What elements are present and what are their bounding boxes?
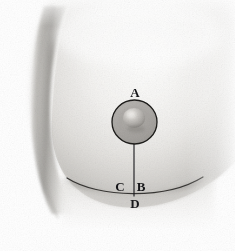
label-b: B [134,180,148,193]
illustration-canvas [0,0,235,251]
areola-nipple-group [112,100,157,144]
bottom-edge-fade [0,228,235,251]
right-edge-fade [186,0,235,251]
nipple [123,108,145,128]
nipple-shadow [127,126,145,133]
nipple-highlight [127,111,135,118]
label-d: D [128,197,142,210]
breast-anatomy-figure: A C B D [0,0,235,251]
label-c: C [113,180,127,193]
label-a: A [128,86,142,99]
